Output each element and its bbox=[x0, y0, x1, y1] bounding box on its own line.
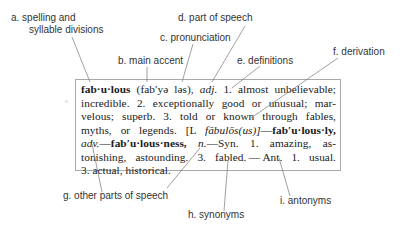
leader-pronunciation bbox=[182, 44, 193, 82]
leader-spelling bbox=[72, 37, 90, 82]
leader-synonyms bbox=[224, 160, 228, 211]
leader-antonyms bbox=[279, 158, 290, 196]
leader-lines bbox=[0, 0, 414, 232]
leader-part-of-speech bbox=[212, 26, 245, 82]
leader-derivation bbox=[251, 58, 338, 118]
leader-definitions bbox=[232, 66, 260, 88]
leader-other-pos-adv bbox=[92, 144, 102, 192]
leader-other-pos-noun bbox=[167, 148, 200, 188]
